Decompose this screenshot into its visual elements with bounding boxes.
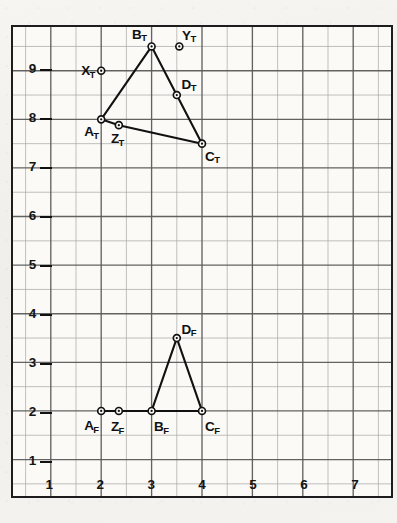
data-point-marker[interactable] [176, 43, 183, 50]
y-axis-tick-mark [40, 412, 52, 413]
y-axis-tick-label: 8 [14, 111, 36, 125]
y-axis-tick-mark [40, 69, 52, 70]
data-point-marker[interactable] [115, 122, 122, 129]
point-label-c-f: CF [205, 420, 220, 434]
plot-layer [13, 27, 391, 496]
y-axis-tick-mark [40, 461, 52, 462]
y-axis-tick-label: 5 [14, 258, 36, 272]
data-point-marker[interactable] [115, 407, 122, 414]
y-axis-tick-mark [40, 118, 52, 119]
x-axis-tick-label: 2 [85, 478, 115, 492]
point-label-x-t: XT [81, 64, 96, 78]
x-axis-tick-label: 5 [238, 478, 268, 492]
data-point-marker[interactable] [148, 407, 155, 414]
y-axis-tick-mark [40, 265, 52, 266]
y-axis-tick-label: 9 [14, 62, 36, 76]
plot-frame [11, 25, 393, 498]
y-axis-tick-mark [40, 314, 52, 315]
y-axis-tick-label: 4 [14, 307, 36, 321]
x-axis-tick-label: 3 [136, 478, 166, 492]
point-label-a-t: AT [84, 125, 99, 139]
point-label-y-t: YT [182, 29, 197, 43]
point-label-d-t: DT [182, 78, 197, 92]
x-axis-tick-label: 6 [289, 478, 319, 492]
data-point-marker[interactable] [148, 43, 155, 50]
data-point-marker[interactable] [98, 407, 105, 414]
point-label-c-t: CT [205, 150, 220, 164]
y-axis-tick-label: 7 [14, 160, 36, 174]
x-axis-tick-label: 4 [187, 478, 217, 492]
y-axis-tick-label: 1 [14, 454, 36, 468]
point-label-b-f: BF [154, 420, 169, 434]
point-label-a-f: AF [84, 419, 99, 433]
point-label-z-t: ZT [111, 132, 125, 146]
y-axis-tick-label: 2 [14, 405, 36, 419]
y-axis-tick-mark [40, 363, 52, 364]
y-axis-tick-mark [40, 167, 52, 168]
data-point-marker[interactable] [173, 335, 180, 342]
plot-polyline [101, 46, 202, 143]
data-point-marker[interactable] [98, 67, 105, 74]
data-point-marker[interactable] [199, 140, 206, 147]
data-point-marker[interactable] [173, 92, 180, 99]
y-axis-tick-label: 3 [14, 356, 36, 370]
x-axis-tick-label: 1 [34, 478, 64, 492]
data-point-marker[interactable] [199, 407, 206, 414]
y-axis-tick-mark [40, 216, 52, 217]
y-axis-tick-label: 6 [14, 209, 36, 223]
point-label-z-f: ZF [111, 420, 125, 434]
plot-polyline [152, 338, 202, 411]
x-axis-tick-label: 7 [340, 478, 370, 492]
point-label-b-t: BT [132, 28, 147, 42]
data-point-marker[interactable] [98, 116, 105, 123]
point-label-d-f: DF [182, 323, 197, 337]
